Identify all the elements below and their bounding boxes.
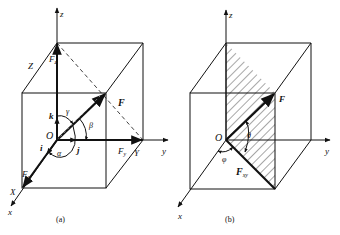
gamma-arc (57, 116, 73, 124)
force-label-b: F (278, 94, 285, 104)
fxy-label: Fxy (235, 166, 248, 178)
x-axis-b (178, 140, 226, 207)
z-axis-label-a: z (59, 9, 64, 19)
y-edge-label: Y (134, 148, 140, 158)
figure-b: z y x O F Fxy θ φ (b) (177, 10, 330, 224)
alpha-label: α (57, 149, 62, 158)
gamma-label: γ (66, 107, 70, 116)
k-label: k (49, 111, 54, 121)
beta-arc (79, 118, 86, 140)
dashed-diagonal (57, 43, 143, 140)
fy-label: Fy (117, 146, 127, 157)
origin-label-b: O (215, 132, 222, 143)
beta-label: β (88, 121, 93, 130)
y-axis-label-a: y (161, 146, 166, 156)
i-unit-vector (47, 140, 57, 154)
x-axis-label-b: x (177, 211, 182, 221)
origin-label-a: O (46, 130, 53, 141)
force-decomposition-diagram: z y x O F Fz Fy Fx k j i γ β α Z Y X (a) (0, 0, 340, 235)
x-axis-label-a: x (7, 207, 12, 217)
caption-b: (b) (225, 215, 235, 224)
caption-a: (a) (56, 215, 65, 224)
force-label-a: F (117, 97, 125, 108)
y-axis-label-b: y (324, 146, 329, 156)
fx-label: Fx (21, 169, 31, 180)
phi-label: φ (222, 155, 227, 164)
i-label: i (40, 143, 43, 153)
j-label: j (75, 145, 80, 155)
force-vector-a (57, 94, 105, 140)
x-edge-label: X (9, 187, 16, 197)
theta-label: θ (247, 131, 251, 140)
z-axis-label-b: z (228, 10, 233, 20)
figure-a: z y x O F Fz Fy Fx k j i γ β α Z Y X (a) (7, 8, 168, 224)
z-edge-label: Z (28, 61, 34, 71)
